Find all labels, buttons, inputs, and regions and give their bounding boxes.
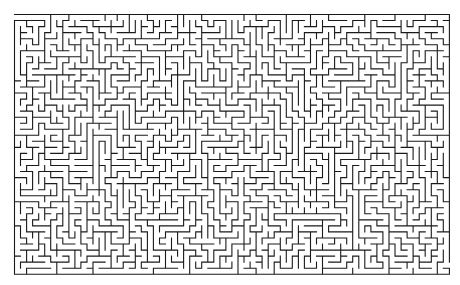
- maze-walls: [0, 0, 460, 285]
- maze-wall-path: [15, 15, 450, 275]
- maze-canvas: [0, 0, 460, 285]
